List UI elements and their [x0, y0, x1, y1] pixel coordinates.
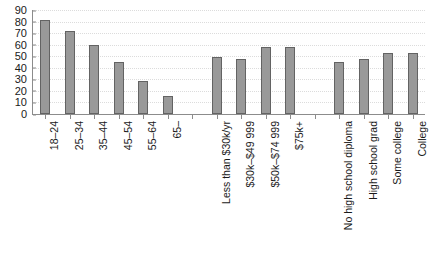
x-axis-tick-mark — [45, 115, 46, 119]
x-axis-tick-label: Some college — [392, 121, 403, 185]
y-axis-tick-label: 50 — [15, 51, 33, 62]
y-axis-tick-label: 80 — [15, 16, 33, 27]
x-axis-tick-label-text: 45–54 — [123, 121, 134, 150]
y-axis-tick: 90 — [15, 5, 33, 16]
x-axis-tick-label-text: Some college — [392, 121, 403, 185]
y-axis-tick-label: 90 — [15, 5, 33, 16]
y-axis-tick-mark — [33, 45, 36, 46]
y-axis-tick-label: 10 — [15, 97, 33, 108]
x-axis-tick-mark — [388, 115, 389, 119]
x-axis-tick-mark — [266, 115, 267, 119]
x-axis-tick-mark — [339, 115, 340, 119]
bar — [212, 57, 222, 114]
bar — [89, 45, 99, 114]
x-axis-tick-label-text: $75k+ — [294, 121, 305, 150]
y-axis-tick: 60 — [15, 39, 33, 50]
x-axis-tick-label: High school grad — [368, 121, 379, 200]
x-axis-tick-label: 25–34 — [74, 121, 85, 150]
gridline — [33, 22, 425, 23]
y-axis-tick-mark — [33, 114, 36, 115]
x-axis-tick-label-text: $50k–$74 999 — [270, 121, 281, 188]
y-axis-tick-label: 0 — [21, 109, 33, 120]
x-axis-tick-mark — [143, 115, 144, 119]
bar — [383, 53, 393, 114]
y-axis-tick: 40 — [15, 62, 33, 73]
x-axis-tick-mark — [290, 115, 291, 119]
x-axis-tick-mark — [70, 115, 71, 119]
bar — [236, 59, 246, 114]
bar-chart: 0102030405060708090 18–2425–3435–4445–54… — [0, 0, 429, 260]
x-axis-tick-label: 55–64 — [147, 121, 158, 150]
y-axis-tick-label: 20 — [15, 85, 33, 96]
bar — [285, 47, 295, 114]
x-axis-tick-label: 35–44 — [98, 121, 109, 150]
x-axis-tick-mark — [94, 115, 95, 119]
x-axis-tick-label: $30k–$49 999 — [245, 121, 256, 188]
bar — [65, 31, 75, 114]
bar — [114, 62, 124, 114]
x-axis-tick-label-text: 55–64 — [147, 121, 158, 150]
y-axis-tick-label: 40 — [15, 62, 33, 73]
x-axis-tick-label: Less than $30k/yr — [221, 121, 232, 204]
x-axis-tick-label: 65– — [172, 121, 183, 139]
bar — [408, 53, 418, 114]
y-axis-tick: 30 — [15, 74, 33, 85]
x-axis-line — [32, 114, 425, 115]
y-axis-tick-mark — [33, 79, 36, 80]
y-axis-tick: 10 — [15, 97, 33, 108]
y-axis-tick: 70 — [15, 28, 33, 39]
y-axis-tick: 80 — [15, 16, 33, 27]
y-axis-tick: 20 — [15, 85, 33, 96]
y-axis-tick: 0 — [21, 109, 33, 120]
x-axis-tick-label-text: 25–34 — [74, 121, 85, 150]
x-axis-tick-mark — [364, 115, 365, 119]
x-axis-tick-mark — [119, 115, 120, 119]
y-axis-tick-label: 60 — [15, 39, 33, 50]
y-axis-tick-mark — [33, 56, 36, 57]
gridline — [33, 33, 425, 34]
y-axis-tick-mark — [33, 22, 36, 23]
y-axis-tick-label: 70 — [15, 28, 33, 39]
bar — [138, 81, 148, 115]
x-axis-tick-label-text: College — [417, 121, 428, 157]
x-axis-separator-tick-mark — [315, 115, 316, 119]
x-axis-tick-label-text: $30k–$49 999 — [245, 121, 256, 188]
y-axis-tick-mark — [33, 102, 36, 103]
y-axis-tick-label: 30 — [15, 74, 33, 85]
x-axis-tick-label: $50k–$74 999 — [270, 121, 281, 188]
x-axis-tick-label: College — [417, 121, 428, 157]
x-axis-tick-label-text: No high school diploma — [343, 121, 354, 230]
x-axis-tick-label: $75k+ — [294, 121, 305, 150]
y-axis-tick: 50 — [15, 51, 33, 62]
x-axis-tick-mark — [413, 115, 414, 119]
x-axis-tick-label-text: 35–44 — [98, 121, 109, 150]
y-axis-tick-mark — [33, 33, 36, 34]
gridline — [33, 10, 425, 11]
x-axis-separator-tick-mark — [192, 115, 193, 119]
plot-area: 0102030405060708090 — [33, 10, 425, 114]
x-axis-tick-mark — [168, 115, 169, 119]
x-axis-tick-label-text: 65– — [172, 121, 183, 139]
x-axis-tick-label-text: High school grad — [368, 121, 379, 200]
y-axis-tick-mark — [33, 91, 36, 92]
x-axis-tick-label: No high school diploma — [343, 121, 354, 230]
y-axis-tick-mark — [33, 68, 36, 69]
x-axis-tick-label: 18–24 — [49, 121, 60, 150]
x-axis-tick-mark — [241, 115, 242, 119]
bar — [40, 20, 50, 114]
x-axis-tick-label-text: Less than $30k/yr — [221, 121, 232, 204]
x-axis-tick-mark — [217, 115, 218, 119]
bar — [163, 96, 173, 114]
y-axis-tick-mark — [33, 10, 36, 11]
x-axis-tick-label-text: 18–24 — [49, 121, 60, 150]
x-axis-tick-label: 45–54 — [123, 121, 134, 150]
bar — [334, 62, 344, 114]
bar — [359, 59, 369, 114]
bar — [261, 47, 271, 114]
